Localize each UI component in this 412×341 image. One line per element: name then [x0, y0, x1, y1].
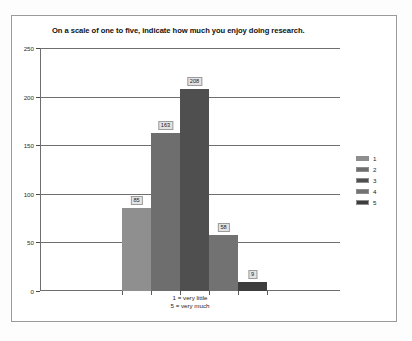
legend-swatch-icon	[356, 200, 369, 205]
bar	[180, 89, 209, 291]
bar-value-label: 163	[158, 121, 173, 130]
legend-item-1: 1	[356, 153, 376, 164]
legend-item-label: 4	[373, 188, 376, 195]
bar-group: 58	[209, 48, 238, 291]
y-axis-tick-label: 100	[24, 190, 34, 197]
bar-group: 9	[238, 48, 267, 291]
bar-series: 85163208589	[40, 48, 340, 291]
plot-area: 050100150200250 85163208589	[40, 48, 340, 291]
legend-item-label: 3	[373, 177, 376, 184]
bar	[151, 133, 180, 291]
chart-screenshot: On a scale of one to five, indicate how …	[0, 0, 412, 341]
y-axis-tick-label: 150	[24, 142, 34, 149]
legend-swatch-icon	[356, 167, 369, 172]
x-axis-caption: 1 = very little 5 = very much	[40, 294, 340, 309]
bar-group: 163	[151, 48, 180, 291]
legend-item-2: 2	[356, 164, 376, 175]
y-axis-tick-label: 50	[27, 239, 34, 246]
chart-legend: 12345	[356, 153, 376, 208]
y-axis-tick-label: 0	[31, 288, 34, 295]
bar	[238, 282, 267, 291]
chart-frame: On a scale of one to five, indicate how …	[11, 15, 397, 322]
y-axis-tick-label: 200	[24, 93, 34, 100]
legend-item-4: 4	[356, 186, 376, 197]
x-axis-caption-line-2: 5 = very much	[40, 302, 340, 310]
legend-swatch-icon	[356, 178, 369, 183]
x-axis-caption-line-1: 1 = very little	[40, 294, 340, 302]
y-axis-tick-mark	[36, 291, 40, 292]
bar	[122, 208, 151, 291]
bar-value-label: 9	[248, 270, 257, 279]
bar-value-label: 208	[187, 77, 202, 86]
bar-value-label: 58	[217, 223, 229, 232]
legend-item-5: 5	[356, 197, 376, 208]
legend-item-3: 3	[356, 175, 376, 186]
bar-group: 208	[180, 48, 209, 291]
chart-title: On a scale of one to five, indicate how …	[52, 26, 352, 35]
legend-item-label: 1	[373, 155, 376, 162]
bar	[209, 235, 238, 291]
legend-swatch-icon	[356, 189, 369, 194]
legend-item-label: 2	[373, 166, 376, 173]
bar-value-label: 85	[130, 196, 142, 205]
legend-swatch-icon	[356, 156, 369, 161]
y-axis-tick-label: 250	[24, 45, 34, 52]
bar-group: 85	[122, 48, 151, 291]
legend-item-label: 5	[373, 199, 376, 206]
